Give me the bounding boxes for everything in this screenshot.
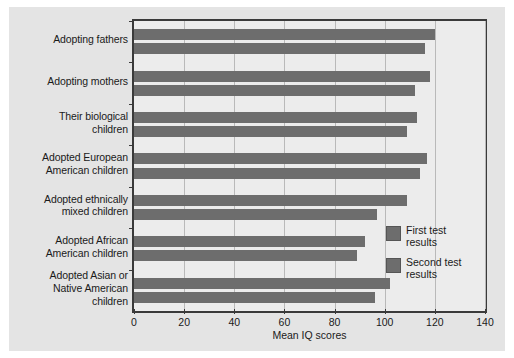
category-label-line: Their biological	[9, 110, 128, 123]
category-axis-labels: Adopting fathersAdopting mothersTheir bi…	[9, 26, 128, 309]
category-label-line: American children	[9, 164, 128, 177]
x-axis-tick-label: 140	[465, 316, 505, 328]
bar	[134, 168, 420, 179]
grid-line	[184, 21, 185, 311]
category-label: Adopting fathers	[9, 33, 128, 46]
category-label-line: Adopting mothers	[9, 75, 128, 88]
legend-swatch-icon	[386, 226, 401, 241]
category-label-line: Adopted Asian or	[9, 269, 128, 282]
x-axis-tick	[134, 309, 135, 314]
category-label: Adopted EuropeanAmerican children	[9, 151, 128, 176]
grid-line	[234, 21, 235, 311]
x-axis-tick-label: 80	[315, 316, 355, 328]
bar	[134, 43, 425, 54]
category-label-line: children	[9, 295, 128, 308]
chart-legend: First test results Second test results	[386, 225, 486, 289]
x-axis-tick-label: 0	[114, 316, 154, 328]
legend-label-line: results	[406, 268, 484, 280]
bar	[134, 112, 417, 123]
category-label-line: Adopted ethnically	[9, 193, 128, 206]
x-axis-tick-label: 120	[415, 316, 455, 328]
bar	[134, 292, 375, 303]
category-label-line: Native American	[9, 282, 128, 295]
x-axis-tick	[184, 309, 185, 314]
category-tick	[129, 62, 134, 63]
bar	[134, 236, 365, 247]
bar	[134, 209, 377, 220]
category-label-line: children	[9, 123, 128, 136]
category-tick	[129, 104, 134, 105]
bar	[134, 250, 357, 261]
category-label-line: Adopted African	[9, 234, 128, 247]
category-label: Adopted Asian orNative Americanchildren	[9, 269, 128, 307]
x-axis-title: Mean IQ scores	[132, 329, 487, 341]
x-axis-tick-label: 100	[365, 316, 405, 328]
category-label: Adopting mothers	[9, 75, 128, 88]
bar	[134, 195, 407, 206]
x-axis-tick-label: 20	[164, 316, 204, 328]
grid-line	[335, 21, 336, 311]
legend-label-line: First test	[406, 224, 484, 236]
x-axis-tick	[335, 309, 336, 314]
x-axis-tick	[385, 309, 386, 314]
legend-label-first-test: First test results	[406, 224, 484, 249]
bar	[134, 85, 415, 96]
bar	[134, 278, 390, 289]
legend-label-line: Second test	[406, 256, 484, 268]
category-tick	[129, 145, 134, 146]
bar	[134, 153, 427, 164]
x-axis-tick-label: 60	[264, 316, 304, 328]
x-axis-tick	[435, 309, 436, 314]
category-label: Adopted ethnicallymixed children	[9, 193, 128, 218]
legend-item-second-test: Second test results	[386, 257, 486, 289]
category-tick	[129, 228, 134, 229]
legend-item-first-test: First test results	[386, 225, 486, 257]
x-axis-tick	[234, 309, 235, 314]
category-label-line: Adopted European	[9, 151, 128, 164]
category-label-line: American children	[9, 247, 128, 260]
category-label: Adopted AfricanAmerican children	[9, 234, 128, 259]
bar	[134, 126, 407, 137]
category-label-line: Adopting fathers	[9, 33, 128, 46]
legend-swatch-icon	[386, 258, 401, 273]
x-axis-tick	[485, 309, 486, 314]
x-axis-tick-label: 40	[214, 316, 254, 328]
legend-label-second-test: Second test results	[406, 256, 484, 281]
x-axis-tick	[284, 309, 285, 314]
category-tick	[129, 187, 134, 188]
category-label-line: mixed children	[9, 205, 128, 218]
category-tick	[129, 270, 134, 271]
category-tick	[129, 21, 134, 22]
grid-line	[284, 21, 285, 311]
bar	[134, 71, 430, 82]
bar	[134, 29, 435, 40]
chart-figure: Adopting fathersAdopting mothersTheir bi…	[9, 7, 505, 351]
legend-label-line: results	[406, 236, 484, 248]
category-label: Their biologicalchildren	[9, 110, 128, 135]
